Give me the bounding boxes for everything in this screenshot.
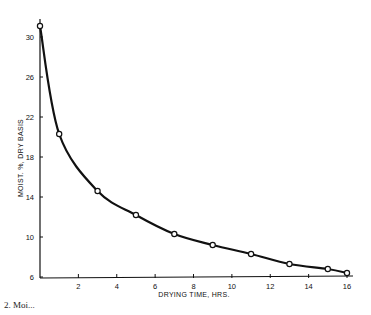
svg-text:10: 10: [228, 282, 236, 291]
svg-text:22: 22: [26, 113, 34, 122]
svg-text:14: 14: [26, 193, 34, 202]
data-point: [287, 261, 292, 266]
svg-text:10: 10: [26, 233, 34, 242]
svg-text:18: 18: [26, 153, 34, 162]
svg-text:26: 26: [26, 73, 34, 82]
data-point: [57, 131, 62, 136]
data-point: [248, 251, 253, 256]
y-axis-label: MOIST. %, DRY BASIS: [17, 119, 24, 197]
data-point: [95, 188, 100, 193]
data-point: [325, 266, 330, 271]
data-point: [344, 270, 349, 275]
svg-text:14: 14: [304, 282, 312, 291]
data-point: [172, 231, 177, 236]
svg-text:16: 16: [343, 282, 351, 291]
svg-text:12: 12: [266, 282, 274, 291]
figure-caption: 2. Moi...: [4, 300, 35, 310]
data-points: [37, 23, 349, 275]
data-curve: [40, 26, 347, 273]
chart: 2468101214166101418222630 DRYING TIME, H…: [0, 0, 371, 315]
tick-labels: 2468101214166101418222630: [26, 33, 352, 291]
x-axis-label: DRYING TIME, HRS.: [158, 291, 229, 298]
svg-text:4: 4: [115, 282, 119, 291]
data-point: [37, 23, 42, 28]
svg-text:8: 8: [191, 282, 195, 291]
data-point: [133, 212, 138, 217]
axes: [40, 19, 353, 278]
svg-text:6: 6: [30, 273, 34, 282]
data-point: [210, 242, 215, 247]
svg-text:30: 30: [26, 33, 34, 42]
svg-text:2: 2: [76, 282, 80, 291]
svg-text:6: 6: [153, 282, 157, 291]
